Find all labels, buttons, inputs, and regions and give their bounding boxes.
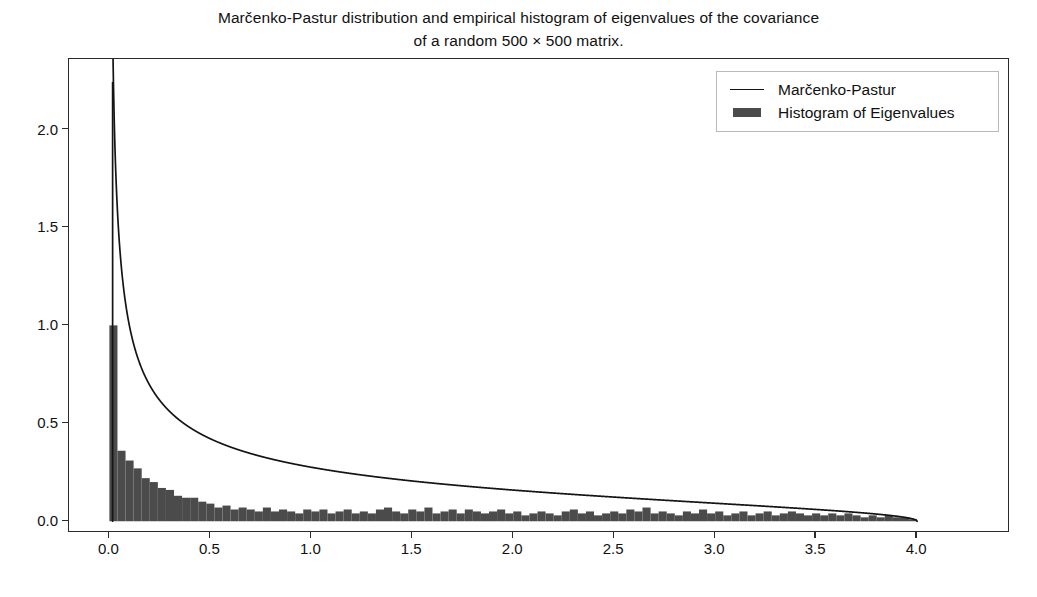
y-tick-label: 0.5 [6,414,58,431]
y-tick-label: 2.0 [6,120,58,137]
y-tick-label: 1.0 [6,316,58,333]
chart-title: Marčenko-Pastur distribution and empiric… [0,6,1037,52]
x-tick-label: 0.5 [179,540,239,557]
x-tick-label: 2.0 [482,540,542,557]
y-tick-mark [62,128,69,129]
figure: Marčenko-Pastur distribution and empiric… [0,0,1037,597]
x-tick-label: 3.5 [785,540,845,557]
y-tick-mark [62,226,69,227]
x-tick-mark [613,531,614,538]
legend-item-marcenko-pastur: Marčenko-Pastur [727,78,988,101]
x-tick-label: 2.5 [583,540,643,557]
x-tick-mark [512,531,513,538]
x-tick-label: 1.5 [381,540,441,557]
x-tick-label: 3.0 [684,540,744,557]
y-tick-mark [62,520,69,521]
y-tick-mark [62,422,69,423]
x-tick-label: 1.0 [280,540,340,557]
x-tick-mark [814,531,815,538]
y-tick-label: 0.0 [6,512,58,529]
legend: Marčenko-Pastur Histogram of Eigenvalues [716,71,999,132]
y-tick-mark [62,324,69,325]
x-tick-mark [915,531,916,538]
x-tick-label: 4.0 [886,540,946,557]
legend-item-label: Histogram of Eigenvalues [778,104,955,122]
x-tick-mark [411,531,412,538]
x-tick-label: 0.0 [78,540,138,557]
legend-item-histogram-of-eigenvalues: Histogram of Eigenvalues [727,101,988,124]
x-tick-mark [209,531,210,538]
y-tick-label: 1.5 [6,218,58,235]
patch-swatch-icon [727,106,767,120]
legend-item-label: Marčenko-Pastur [778,81,896,99]
x-tick-mark [108,531,109,538]
line-swatch-icon [727,83,767,97]
x-tick-mark [310,531,311,538]
x-tick-mark [714,531,715,538]
